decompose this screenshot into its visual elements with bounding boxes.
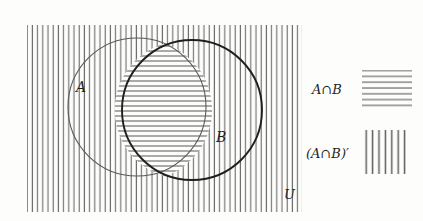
legend-swatch-horizontal-lines xyxy=(362,70,412,110)
universal-set-label: U xyxy=(284,187,296,202)
set-b-label: B xyxy=(215,129,226,145)
set-a-label: A xyxy=(74,79,86,95)
legend-label-intersection: A∩B xyxy=(311,82,342,97)
legend-swatch-vertical-lines xyxy=(362,130,408,174)
legend-label-complement: (A∩B)′ xyxy=(306,146,349,161)
venn-diagram-canvas: A B U A∩B (A∩B)′ xyxy=(0,0,423,221)
venn-diagram-figure: A B U A∩B (A∩B)′ xyxy=(0,0,423,221)
